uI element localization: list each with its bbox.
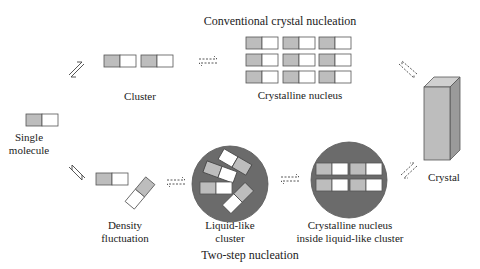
nucleus-inside-cluster-label-line2: inside liquid-like cluster xyxy=(290,232,410,245)
density-fluctuation-label-line2: fluctuation xyxy=(90,232,160,245)
bottom-title: Two-step nucleation xyxy=(180,249,320,262)
density-fluctuation-glyph xyxy=(96,173,155,209)
dashed-equilibrium-arrow-icon xyxy=(199,56,217,66)
equilibrium-arrow-icon xyxy=(69,165,85,180)
dashed-equilibrium-arrow-icon xyxy=(399,61,417,78)
dashed-equilibrium-arrow-icon xyxy=(281,174,299,184)
top-title: Conventional crystal nucleation xyxy=(200,15,360,28)
nucleus-inside-cluster-label-line1: Crystalline nucleus xyxy=(290,219,410,232)
crystalline-nucleus-glyph xyxy=(246,37,351,83)
liquid-like-cluster-label-line1: Liquid-like xyxy=(190,219,270,232)
dashed-equilibrium-arrow-icon xyxy=(167,177,185,187)
cluster-label: Cluster xyxy=(105,90,175,103)
single-molecule-glyph xyxy=(26,114,58,126)
crystal-glyph xyxy=(424,77,460,160)
nucleus-in-cluster-glyph xyxy=(311,142,387,218)
crystal-label: Crystal xyxy=(410,171,478,184)
single-molecule-label-line2: molecule xyxy=(0,144,58,157)
crystalline-nucleus-label: Crystalline nucleus xyxy=(244,89,356,102)
equilibrium-arrow-icon xyxy=(69,62,84,77)
single-molecule-label-line1: Single xyxy=(0,131,58,144)
cluster-glyph xyxy=(104,55,173,67)
liquid-like-cluster-label-line2: cluster xyxy=(190,232,270,245)
density-fluctuation-label-line1: Density xyxy=(90,219,160,232)
liquid-like-cluster-glyph xyxy=(192,146,268,222)
